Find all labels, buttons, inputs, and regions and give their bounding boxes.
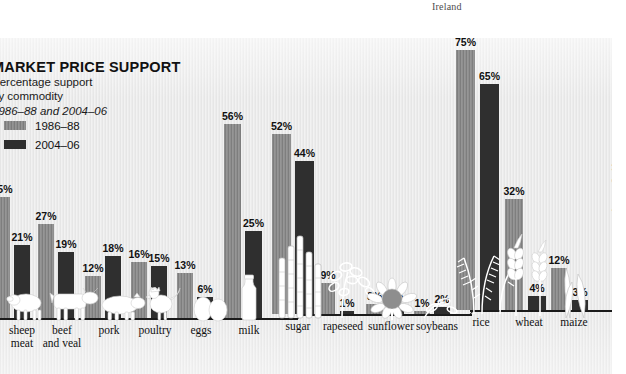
bar-value-label: 9% [320,269,335,281]
bar-rice-2004: 65% [480,84,499,310]
bar-value-label: 3% [367,290,382,302]
bar-value-label: 18% [102,242,123,254]
baseline-segment-middle [300,314,472,316]
legend-swatch-1986-88 [4,121,26,130]
bar-value-label: 32% [503,185,524,197]
bar-value-label: 52% [271,120,292,132]
category-label-maize: maize [524,316,612,329]
bar-value-label: 3% [388,290,403,302]
legend-label-2004-06: 2004–06 [35,139,80,151]
bar-beef-and-veal-2004: 19% [58,252,74,318]
bar-value-label: 56% [222,110,243,122]
chart-title: MARKET PRICE SUPPORT [0,60,181,75]
bar-value-label: 44% [294,147,315,159]
bar-sheep-meat-1986: 35% [0,197,10,318]
legend-label-1986-88: 1986–88 [35,120,80,132]
title-block: MARKET PRICE SUPPORT Percentage support … [0,60,181,119]
bar-value-label: 2% [434,293,449,305]
bar-value-label: 12% [82,262,103,274]
legend-swatch-2004-06 [4,140,26,149]
bar-value-label: 16% [128,248,149,260]
bar-value-label: 75% [455,38,476,48]
bar-wheat-2004: 4% [528,296,546,310]
legend-item-1986-88: 1986–88 [4,118,80,133]
bar-soybeans-2004: 2% [434,307,450,314]
chart-page: Ireland MARKET PRICE SUPPORT Percentage … [0,0,626,374]
chart-subtitle-line2: by commodity [0,89,181,104]
bar-milk-1986: 56% [224,124,241,318]
bar-eggs-1986: 13% [177,273,193,318]
baseline-segment-left [0,318,298,320]
bar-milk-2004: 25% [245,231,262,318]
bar-value-label: 1% [339,297,354,309]
bar-value-label: 3% [572,286,587,298]
bar-sunflower-1986: 3% [366,304,383,314]
bar-value-label: 4% [529,282,544,294]
bar-value-label: 12% [548,254,569,266]
bar-value-label: 21% [11,231,32,243]
bar-sugar-1986: 52% [272,134,291,314]
bar-eggs-2004: 6% [197,297,213,318]
bar-poultry-1986: 16% [131,262,147,318]
chart-legend: 1986–88 2004–06 [4,118,80,156]
bar-value-label: 27% [35,210,56,222]
panel-right-margin [612,38,626,374]
bar-poultry-2004: 15% [151,266,167,318]
bar-sheep-meat-2004: 21% [14,245,30,318]
bar-maize-1986: 12% [551,268,567,310]
bar-value-label: 13% [174,259,195,271]
bar-pork-1986: 12% [85,276,101,318]
legend-item-2004-06: 2004–06 [4,137,80,152]
bar-value-label: 35% [0,183,13,195]
baseline-segment-right [470,310,612,312]
chart-subtitle-line1: Percentage support [0,75,181,90]
bar-maize-2004: 3% [572,300,588,310]
bar-wheat-1986: 32% [505,199,523,310]
bar-sunflower-2004: 3% [387,304,404,314]
bar-beef-and-veal-1986: 27% [38,224,54,318]
bar-value-label: 65% [479,70,500,82]
chart-subtitle-line3: 1986–88 and 2004–06 [0,104,181,119]
bar-value-label: 15% [148,252,169,264]
bar-value-label: 19% [55,238,76,250]
chart-panel: MARKET PRICE SUPPORT Percentage support … [0,38,612,374]
bar-value-label: 1% [414,297,429,309]
bar-value-label: 6% [197,283,212,295]
bar-sugar-2004: 44% [295,161,314,314]
bar-value-label: 25% [243,217,264,229]
bleed-label: Ireland [432,1,462,12]
bar-rice-1986: 75% [456,50,475,310]
bar-pork-2004: 18% [105,256,121,318]
bar-rapeseed-1986: 9% [321,283,335,314]
